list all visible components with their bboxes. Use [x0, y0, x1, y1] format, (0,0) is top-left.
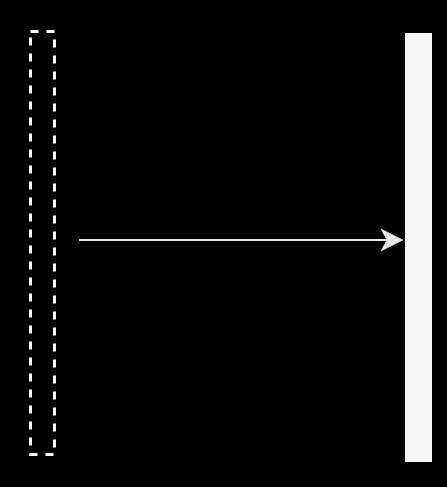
diagram-svg — [0, 0, 447, 487]
diagram-background — [0, 0, 447, 487]
diagram-canvas — [0, 0, 447, 487]
solid-bar — [405, 33, 432, 462]
